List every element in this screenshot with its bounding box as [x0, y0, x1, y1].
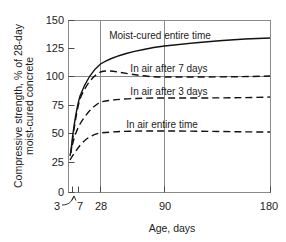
ytick-label-0: 0	[58, 186, 64, 198]
compressive-strength-line-chart: 150 125 100 75 50 25 0 3 7 28 90 180 Age…	[0, 0, 286, 242]
x-axis-title: Age, days	[149, 222, 196, 234]
ytick-label-75: 75	[52, 99, 64, 111]
series-label-moist-cured: Moist-cured entire time	[109, 30, 211, 41]
xtick-label-180: 180	[260, 200, 278, 212]
ytick-label-125: 125	[46, 42, 64, 54]
series-label-in-air-after-3-days: In air after 3 days	[130, 86, 207, 97]
xtick-label-7: 7	[77, 200, 83, 212]
xtick-label-90: 90	[159, 200, 171, 212]
chart-figure: 150 125 100 75 50 25 0 3 7 28 90 180 Age…	[0, 0, 286, 242]
y-axis-title-line2: moist-cured concrete	[23, 57, 35, 155]
series-label-in-air-entire-time: In air entire time	[126, 119, 198, 130]
xtick-label-28: 28	[95, 200, 107, 212]
ytick-label-50: 50	[52, 127, 64, 139]
ytick-label-100: 100	[46, 70, 64, 82]
ytick-label-25: 25	[52, 156, 64, 168]
ytick-label-150: 150	[46, 14, 64, 26]
series-label-in-air-after-7-days: In air after 7 days	[130, 63, 207, 74]
xtick-label-3: 3	[54, 200, 60, 212]
